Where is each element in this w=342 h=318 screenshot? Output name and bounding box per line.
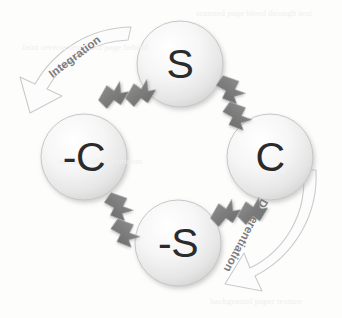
node-neg-s-circle[interactable] [135,200,221,286]
node-neg-c-circle[interactable] [41,114,127,200]
diagram-svg [0,0,342,318]
diagram-canvas: scanned page bleed through text faint re… [0,0,342,318]
